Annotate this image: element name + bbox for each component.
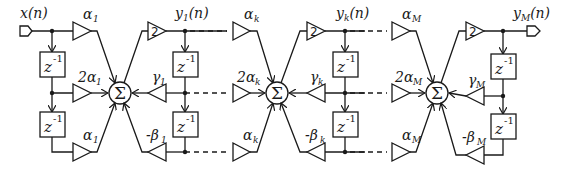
- svg-text:-1: -1: [53, 113, 63, 124]
- svg-text:α: α: [244, 6, 254, 22]
- gain-2-output-M: 2: [466, 22, 484, 40]
- svg-text:z: z: [336, 118, 345, 136]
- gain-2-output-1: 2: [148, 22, 166, 40]
- gain-gammaM: γ M: [466, 72, 486, 105]
- gain-alphak-bottom: α k: [233, 127, 258, 161]
- gain-gammak: γ k: [307, 69, 325, 102]
- svg-text:M: M: [412, 77, 423, 87]
- output-label-y1: y1(n): [174, 5, 209, 23]
- delay-block-1b: z -1: [40, 112, 65, 137]
- svg-text:-β: -β: [305, 127, 318, 143]
- output-label-yk: yk(n): [335, 5, 369, 23]
- gain-2alpha1-mid: 2α 1: [73, 69, 102, 102]
- delay-block-yMa: z -1: [491, 54, 516, 79]
- svg-text:2α: 2α: [77, 69, 97, 85]
- svg-text:-1: -1: [504, 55, 514, 66]
- svg-text:1: 1: [161, 135, 167, 145]
- svg-text:-1: -1: [53, 53, 63, 64]
- gain-2alphaM-mid: 2α M: [392, 69, 423, 102]
- svg-text:-β: -β: [462, 129, 475, 145]
- svg-text:M: M: [475, 80, 486, 90]
- gain-alpha1-bottom: α 1: [73, 127, 99, 161]
- summing-junction-1: Σ: [109, 82, 131, 104]
- svg-text:z: z: [494, 60, 503, 78]
- delay-block-yMb: z -1: [491, 114, 516, 139]
- svg-text:1: 1: [96, 77, 102, 87]
- svg-text:1: 1: [93, 14, 99, 24]
- summing-junction-M: Σ: [426, 82, 448, 104]
- filter-block-diagram: x(n) z -1 z -1 α 1 2α 1 α 1 Σ: [0, 0, 561, 175]
- svg-text:α: α: [243, 127, 253, 143]
- svg-text:z: z: [43, 58, 52, 76]
- summing-junction-k: k Σ: [266, 82, 288, 104]
- svg-text:-β: -β: [146, 127, 159, 143]
- svg-text:2α: 2α: [236, 69, 256, 85]
- svg-text:2: 2: [469, 25, 477, 39]
- svg-text:α: α: [83, 127, 93, 143]
- input-port: [20, 26, 32, 36]
- gain-neg-betaM: -β M: [462, 129, 487, 164]
- gain-gamma1: γ 1: [148, 69, 166, 102]
- svg-text:-1: -1: [504, 115, 514, 126]
- svg-text:Σ: Σ: [114, 83, 126, 103]
- gain-alphaM-bottom: α M: [392, 127, 422, 161]
- delay-block-ykb: z -1: [333, 112, 358, 137]
- svg-text:M: M: [476, 137, 487, 147]
- input-label: x(n): [20, 5, 48, 21]
- svg-text:2: 2: [151, 25, 159, 39]
- svg-text:M: M: [411, 14, 422, 24]
- svg-text:α: α: [83, 6, 93, 22]
- svg-text:Σ: Σ: [431, 83, 443, 103]
- svg-text:k: k: [320, 135, 325, 145]
- svg-text:2α: 2α: [394, 69, 414, 85]
- gain-neg-betak: -β k: [305, 127, 325, 161]
- svg-text:z: z: [494, 120, 503, 138]
- svg-text:2: 2: [310, 25, 318, 39]
- svg-text:1: 1: [160, 77, 166, 87]
- svg-text:-1: -1: [346, 53, 356, 64]
- delay-block-1a: z -1: [40, 52, 65, 77]
- svg-text:k: k: [254, 14, 259, 24]
- svg-text:z: z: [336, 58, 345, 76]
- gain-alphak-top: α k: [233, 6, 259, 40]
- gain-2-output-k: 2: [307, 22, 325, 40]
- svg-text:z: z: [43, 118, 52, 136]
- svg-text:k: k: [255, 77, 260, 87]
- svg-text:z: z: [176, 58, 185, 76]
- delay-block-y1b: z -1: [173, 112, 198, 137]
- gain-2alphak-mid: 2α k: [233, 69, 260, 102]
- gain-alpha1-top: α 1: [73, 6, 99, 40]
- svg-text:z: z: [176, 118, 185, 136]
- delay-block-y1a: z -1: [173, 52, 198, 77]
- svg-text:k: k: [318, 77, 323, 87]
- svg-text:1: 1: [93, 135, 99, 145]
- gain-neg-beta1: -β 1: [146, 127, 167, 161]
- svg-text:k: k: [253, 135, 258, 145]
- svg-text:Σ: Σ: [271, 83, 283, 103]
- svg-text:α: α: [402, 6, 412, 22]
- svg-text:-1: -1: [186, 113, 196, 124]
- output-port: [527, 26, 540, 36]
- output-label-yM: yM(n): [512, 5, 550, 23]
- svg-text:-1: -1: [346, 113, 356, 124]
- svg-text:α: α: [402, 127, 412, 143]
- svg-text:-1: -1: [186, 53, 196, 64]
- delay-block-yka: z -1: [333, 52, 358, 77]
